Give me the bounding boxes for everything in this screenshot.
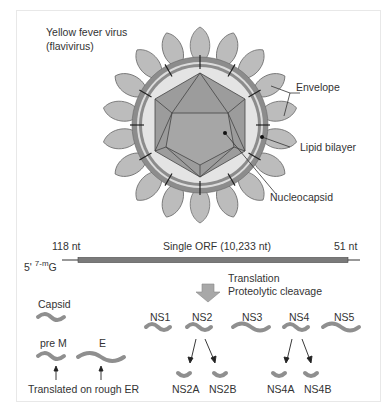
nucleocapsid-label: Nucleocapsid — [270, 191, 333, 203]
ns4-protein — [284, 324, 308, 330]
virion — [102, 27, 298, 223]
ns3-label: NS3 — [242, 311, 262, 323]
ns1-label: NS1 — [150, 311, 170, 323]
cap-base: G — [49, 261, 57, 273]
process-arrow — [196, 284, 220, 302]
ns5-protein — [323, 324, 359, 331]
ns2-label: NS2 — [192, 311, 212, 323]
e-label: E — [99, 337, 106, 349]
ns4-label: NS4 — [289, 311, 309, 323]
orf-label: Single ORF (10,233 nt) — [163, 240, 271, 252]
utr3-label: 51 nt — [334, 240, 357, 252]
title-line1: Yellow fever virus — [46, 26, 127, 38]
utr5-label: 118 nt — [52, 240, 80, 252]
genome-bar — [62, 258, 360, 263]
ns1-protein — [146, 324, 170, 330]
ns4b-label: NS4B — [304, 383, 331, 395]
ns5-label: NS5 — [334, 311, 354, 323]
prem-label: pre M — [40, 337, 67, 349]
ns4a-protein — [273, 373, 285, 376]
cap-methyl: 7-m — [35, 259, 49, 268]
process-line1: Translation — [228, 272, 280, 284]
ns2-protein — [187, 324, 211, 330]
ns4a-label: NS4A — [267, 383, 294, 395]
ns2a-label: NS2A — [172, 383, 199, 395]
ns2b-label: NS2B — [209, 383, 236, 395]
rough-er-note: Translated on rough ER — [28, 383, 139, 395]
e-protein — [78, 353, 124, 361]
ns2b-protein — [214, 373, 226, 376]
capsid-protein — [38, 314, 64, 320]
five-prime: 5' — [24, 261, 32, 273]
envelope-label: Envelope — [296, 81, 340, 93]
five-prime-cap: 5' 7-mG — [24, 258, 57, 273]
lipid-bilayer-label: Lipid bilayer — [300, 141, 356, 153]
proteins — [38, 314, 359, 376]
ns3-protein — [233, 324, 269, 331]
prem-protein — [38, 353, 64, 359]
process-line2: Proteolytic cleavage — [228, 285, 322, 297]
capsid-label: Capsid — [38, 298, 71, 310]
title-line2: (flavivirus) — [46, 40, 94, 52]
ns2a-protein — [178, 373, 190, 376]
ns4b-protein — [305, 373, 317, 376]
